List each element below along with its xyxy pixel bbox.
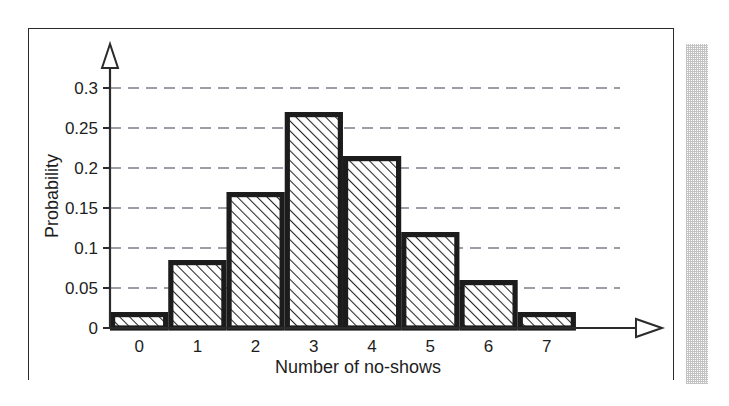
y-tick-label: 0.05 [65, 279, 98, 298]
bar [113, 315, 166, 328]
x-tick-labels-group: 01234567 [134, 337, 551, 356]
figure-shadow [686, 44, 708, 384]
bar [171, 263, 224, 328]
x-tick-label: 1 [193, 337, 202, 356]
x-axis-title: Number of no-shows [275, 357, 441, 377]
chart-svg: 00.050.10.150.20.250.3 01234567 Number o… [28, 28, 674, 380]
x-tick-label: 5 [426, 337, 435, 356]
bar [287, 115, 340, 328]
bar [520, 315, 573, 328]
x-axis-arrow-icon [636, 319, 662, 337]
x-tick-label: 4 [367, 337, 376, 356]
bar [229, 195, 282, 328]
y-tick-label: 0.15 [65, 199, 98, 218]
x-tick-label: 6 [484, 337, 493, 356]
x-tick-label: 0 [134, 337, 143, 356]
y-tick-label: 0.2 [74, 159, 98, 178]
bar [462, 283, 515, 328]
bar [404, 235, 457, 328]
y-tick-label: 0.1 [74, 239, 98, 258]
y-axis-title: Probability [42, 154, 62, 238]
y-tick-label: 0.25 [65, 119, 98, 138]
bar [346, 159, 399, 328]
x-tick-label: 7 [542, 337, 551, 356]
y-tick-label: 0.3 [74, 79, 98, 98]
y-tick-label: 0 [89, 319, 98, 338]
x-tick-label: 3 [309, 337, 318, 356]
y-tick-labels-group: 00.050.10.150.20.250.3 [65, 79, 98, 338]
bars-group [113, 115, 574, 328]
histogram-chart: 00.050.10.150.20.250.3 01234567 Number o… [28, 28, 674, 380]
x-tick-label: 2 [251, 337, 260, 356]
y-axis-arrow-icon [102, 44, 118, 68]
